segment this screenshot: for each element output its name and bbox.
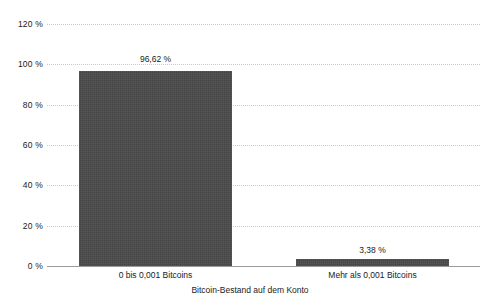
y-tick-label-80: 80 % [0,101,43,110]
gridline-100 [47,64,480,65]
bar-0-bis-0-001-bitcoins [79,71,232,266]
x-tick-label-0: 0 bis 0,001 Bitcoins [119,270,193,281]
gridline-120 [47,24,480,25]
bar-value-label-1: 3,38 % [359,245,385,255]
bar-value-label-0: 96,62 % [140,54,171,64]
y-tick-label-120: 120 % [0,20,43,29]
plot-area [47,24,480,266]
y-tick-label-60: 60 % [0,141,43,150]
x-axis-title: Bitcoin-Bestand auf dem Konto [0,285,500,296]
y-tick-label-40: 40 % [0,181,43,190]
y-tick-label-0: 0 % [0,262,43,271]
x-tick-label-1: Mehr als 0,001 Bitcoins [328,270,416,281]
y-axis-tick-labels: 120 % 100 % 80 % 60 % 40 % 20 % 0 % [0,24,43,266]
y-tick-label-20: 20 % [0,222,43,231]
bar-mehr-als-0-001-bitcoins [296,259,449,266]
bar-chart: 120 % 100 % 80 % 60 % 40 % 20 % 0 % 96,6… [0,0,500,305]
y-tick-label-100: 100 % [0,60,43,69]
x-axis-line [47,266,480,267]
